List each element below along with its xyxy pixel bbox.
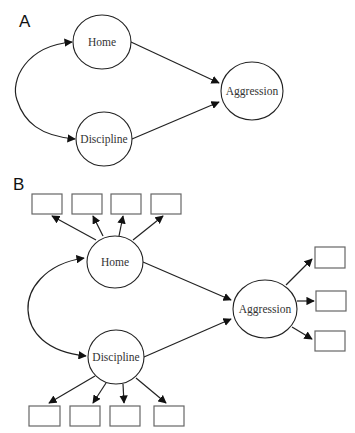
home-indicator-arrow-2: [93, 216, 103, 236]
home-to-aggression-arrow-a: [131, 42, 219, 83]
node-discipline-b: Discipline: [88, 330, 144, 384]
home-indicator-box-1: [32, 194, 62, 214]
home-to-aggression-arrow-b: [143, 262, 231, 300]
panel-b: B: [13, 175, 346, 426]
node-discipline-a: Discipline: [76, 112, 132, 166]
discipline-indicator-arrow-4: [136, 378, 166, 403]
node-aggression-a: Aggression: [221, 62, 283, 120]
home-indicator-arrow-3: [119, 216, 123, 236]
discipline-indicator-arrow-3: [123, 384, 124, 403]
aggression-indicator-box-2: [316, 291, 346, 311]
covariance-arrow-b: [28, 258, 86, 356]
node-home-a-label: Home: [88, 36, 116, 48]
discipline-indicator-arrow-1: [49, 376, 95, 403]
aggression-indicator-box-1: [315, 247, 345, 268]
aggression-indicator-arrow-1: [286, 259, 312, 285]
aggression-indicators: [315, 247, 346, 351]
discipline-indicators: [29, 406, 184, 426]
discipline-indicator-box-1: [29, 406, 60, 426]
discipline-to-aggression-arrow-b: [144, 319, 231, 357]
node-discipline-a-label: Discipline: [80, 133, 127, 146]
discipline-indicator-arrow-2: [93, 383, 106, 403]
home-indicator-box-4: [151, 194, 181, 214]
node-aggression-b-label: Aggression: [239, 303, 292, 316]
node-home-a: Home: [73, 15, 131, 69]
aggression-indicator-arrow-3: [292, 327, 312, 339]
node-home-b: Home: [87, 236, 143, 288]
discipline-to-aggression-arrow-a: [132, 102, 219, 139]
node-aggression-b: Aggression: [233, 280, 297, 338]
home-indicator-box-3: [111, 194, 141, 214]
node-aggression-a-label: Aggression: [226, 85, 279, 98]
node-home-b-label: Home: [101, 256, 129, 268]
discipline-indicator-box-3: [110, 406, 140, 426]
panel-a-label: A: [19, 12, 31, 31]
home-indicator-arrow-4: [133, 216, 163, 240]
home-indicator-arrow-1: [52, 216, 96, 240]
discipline-indicator-box-4: [154, 406, 184, 426]
node-discipline-b-label: Discipline: [92, 351, 139, 364]
aggression-indicator-box-3: [315, 331, 345, 351]
discipline-indicator-box-2: [70, 406, 100, 426]
sem-diagram: A Home Discipline Aggression B: [0, 0, 355, 433]
covariance-arrow-a: [15, 42, 75, 139]
home-indicators: [32, 194, 181, 214]
panel-a: A Home Discipline Aggression: [15, 12, 283, 166]
home-indicator-box-2: [72, 194, 102, 214]
panel-b-label: B: [13, 175, 24, 194]
